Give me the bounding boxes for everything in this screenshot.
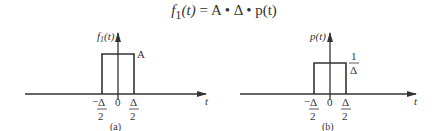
x-label-b: t bbox=[414, 95, 418, 107]
tick-neg-den-a: 2 bbox=[98, 110, 104, 122]
tick-pos-den-a: 2 bbox=[130, 110, 136, 122]
tick-zero-b: 0 bbox=[327, 96, 333, 108]
tick-neg-num-b: Δ bbox=[310, 96, 317, 108]
tick-pos-num-b: Δ bbox=[342, 96, 349, 108]
tick-neg-den-b: 2 bbox=[310, 110, 316, 122]
height-label-den-b: Δ bbox=[350, 64, 357, 76]
y-label-b: p(t) bbox=[309, 30, 326, 43]
tick-zero-a: 0 bbox=[115, 96, 121, 108]
panel-a: f1(t) A t − Δ 2 0 Δ 2 (a) bbox=[25, 30, 209, 131]
height-label-num-b: 1 bbox=[351, 50, 357, 62]
tick-pos-den-b: 2 bbox=[342, 110, 348, 122]
panel-b: p(t) 1 Δ t − Δ 2 0 Δ 2 (b) bbox=[240, 30, 418, 131]
caption-b: (b) bbox=[322, 121, 334, 131]
tick-pos-num-a: Δ bbox=[130, 96, 137, 108]
y-label-a: f1(t) bbox=[97, 30, 115, 44]
diagram-canvas: f1(t) A t − Δ 2 0 Δ 2 (a) p(t) 1 Δ t − Δ… bbox=[0, 0, 448, 131]
height-label-a: A bbox=[137, 48, 145, 60]
caption-a: (a) bbox=[110, 121, 121, 131]
x-label-a: t bbox=[205, 95, 209, 107]
tick-neg-num-a: Δ bbox=[98, 96, 105, 108]
